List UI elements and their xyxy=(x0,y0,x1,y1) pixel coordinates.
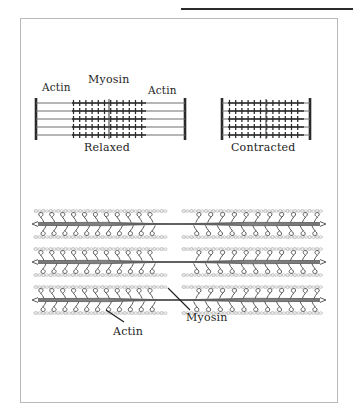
myosin-neck xyxy=(43,263,46,269)
myosin-neck xyxy=(54,301,57,307)
myosin-head-loop xyxy=(230,231,234,235)
relaxed-sarcomere-diagram xyxy=(36,98,185,140)
myosin-head-loop xyxy=(63,231,67,235)
myosin-neck xyxy=(152,225,155,231)
myosin-head-loop xyxy=(303,289,307,293)
myosin-neck xyxy=(229,301,232,307)
myosin-head xyxy=(85,301,90,311)
myosin-head-loop xyxy=(256,213,260,217)
myosin-head-loop xyxy=(279,251,283,255)
myosin-neck xyxy=(76,301,79,307)
myosin-head-loop xyxy=(74,231,78,235)
myosin-head xyxy=(196,251,201,261)
myosin-head-loop xyxy=(315,251,319,255)
myosin-neck xyxy=(302,217,305,223)
myosin-neck xyxy=(52,217,55,223)
myosin-neck xyxy=(43,301,46,307)
myosin-head xyxy=(150,263,155,273)
myosin-head-loop xyxy=(209,251,213,255)
myosin-neck xyxy=(141,225,144,231)
myosin-head xyxy=(61,251,66,261)
myosin-neck xyxy=(150,293,153,299)
myosin-head-loop xyxy=(50,251,54,255)
myosin-neck xyxy=(196,293,199,299)
myosin-head xyxy=(148,289,153,299)
myosin-head-loop xyxy=(289,231,293,235)
myosin-neck xyxy=(54,263,57,269)
myosin-head-loop xyxy=(50,289,54,293)
myosin-head-loop xyxy=(61,213,65,217)
myosin-neck xyxy=(128,293,131,299)
myosin-head-loop xyxy=(268,289,272,293)
myosin-tip xyxy=(32,222,38,227)
myosin-head-loop xyxy=(96,307,100,311)
myosin-head-loop xyxy=(206,269,210,273)
myosin-head xyxy=(267,213,272,223)
myosin-neck xyxy=(229,225,232,231)
myosin-head-loop xyxy=(265,231,269,235)
myosin-head-loop xyxy=(93,289,97,293)
myosin-head xyxy=(74,301,79,311)
myosin-neck xyxy=(243,255,246,261)
myosin-head-loop xyxy=(150,307,154,311)
myosin-thick-filament xyxy=(174,251,326,274)
actin-filament-strand xyxy=(182,236,323,239)
myosin-head-loop xyxy=(139,307,143,311)
myosin-head-loop xyxy=(139,269,143,273)
myosin-head xyxy=(74,225,79,235)
myosin-head xyxy=(290,251,295,261)
myosin-neck xyxy=(139,293,142,299)
myosin-head-loop xyxy=(115,289,119,293)
myosin-head xyxy=(71,213,76,223)
myosin-head-loop xyxy=(128,269,132,273)
myosin-neck xyxy=(208,255,211,261)
myosin-neck xyxy=(141,263,144,269)
myosin-neck xyxy=(62,293,65,299)
myosin-neck xyxy=(314,255,317,261)
myosin-neck xyxy=(76,263,79,269)
myosin-neck xyxy=(43,225,46,231)
myosin-head-loop xyxy=(197,289,201,293)
myosin-head xyxy=(96,225,101,235)
myosin-neck xyxy=(65,225,68,231)
myosin-neck xyxy=(265,301,268,307)
myosin-head xyxy=(267,289,272,299)
myosin-neck xyxy=(314,293,317,299)
actin-filament-strand xyxy=(34,248,167,251)
myosin-head xyxy=(231,289,236,299)
myosin-neck xyxy=(243,217,246,223)
myosin-neck xyxy=(265,263,268,269)
myosin-neck xyxy=(231,217,234,223)
myosin-neck xyxy=(253,301,256,307)
myosin-head xyxy=(288,225,293,235)
myosin-head xyxy=(85,225,90,235)
myosin-head-loop xyxy=(303,251,307,255)
myosin-neck xyxy=(52,293,55,299)
myosin-head-loop xyxy=(277,269,281,273)
myosin-head xyxy=(104,289,109,299)
myosin-head xyxy=(85,263,90,273)
myosin-head xyxy=(148,213,153,223)
myosin-head xyxy=(217,225,222,235)
myosin-thick-filament xyxy=(174,213,326,236)
myosin-head-loop xyxy=(150,269,154,273)
myosin-head-loop xyxy=(61,251,65,255)
myosin-head-loop xyxy=(268,251,272,255)
myosin-head xyxy=(106,263,111,273)
myosin-head-loop xyxy=(244,213,248,217)
myosin-neck xyxy=(312,263,315,269)
myosin-head xyxy=(148,251,153,261)
myosin-neck xyxy=(196,255,199,261)
label-actin-left: Actin xyxy=(42,81,71,93)
myosin-head-loop xyxy=(209,289,213,293)
myosin-head xyxy=(253,225,258,235)
myosin-neck xyxy=(253,263,256,269)
myosin-head xyxy=(41,301,46,311)
myosin-head xyxy=(93,251,98,261)
myosin-head-loop xyxy=(71,289,75,293)
myosin-neck xyxy=(253,225,256,231)
myosin-head xyxy=(52,225,57,235)
myosin-head xyxy=(93,213,98,223)
myosin-head xyxy=(71,251,76,261)
myosin-head xyxy=(217,263,222,273)
